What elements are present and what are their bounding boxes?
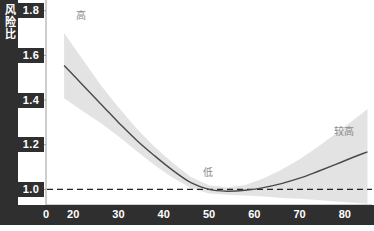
x-tick-label: 80 (331, 206, 359, 223)
annotation-fairly-high: 较高 (334, 126, 354, 137)
y-tick-label: 1.4 (18, 93, 44, 108)
plot-area (0, 0, 374, 231)
x-tick-label: 40 (150, 206, 178, 223)
risk-ratio-chart: 风险比 1.01.21.41.61.8 203040506070800 高低较高 (0, 0, 374, 231)
y-axis-title: 风险比 (2, 4, 16, 40)
x-axis-origin-label: 0 (32, 206, 60, 223)
y-tick-label: 1.6 (18, 48, 44, 63)
y-tick-label: 1.2 (18, 137, 44, 152)
annotation-high: 高 (76, 10, 86, 21)
y-tick-label: 1.0 (18, 182, 44, 197)
x-tick-label: 30 (104, 206, 132, 223)
x-tick-label: 70 (286, 206, 314, 223)
annotation-low: 低 (203, 167, 213, 178)
x-tick-label: 50 (195, 206, 223, 223)
x-tick-label: 60 (240, 206, 268, 223)
confidence-band (64, 33, 367, 204)
y-axis-title-highlight: 风险比 (0, 0, 18, 205)
x-tick-label: 20 (59, 206, 87, 223)
y-tick-label: 1.8 (18, 3, 44, 18)
